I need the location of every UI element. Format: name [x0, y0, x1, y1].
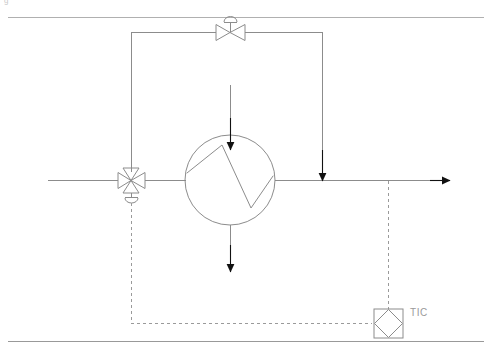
- tic-instrument-symbol[interactable]: [374, 309, 403, 338]
- bypass-line: [131, 32, 323, 172]
- three-way-valve-symbol[interactable]: [118, 168, 145, 203]
- signal-line-to-valve: [131, 203, 372, 324]
- tic-tag-label: TIC: [410, 307, 428, 318]
- pid-diagram-canvas: TIC: [0, 0, 492, 355]
- control-valve-symbol[interactable]: [216, 17, 245, 41]
